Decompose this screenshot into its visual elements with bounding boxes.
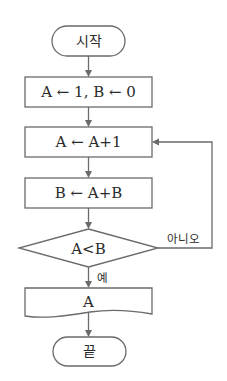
arrow-increment-to-sum (85, 157, 92, 178)
start-terminal: 시작 (52, 26, 125, 56)
arrow-sum-to-decision (85, 208, 92, 229)
end-terminal: 끝 (53, 337, 126, 366)
arrow-yes-to-output (85, 267, 92, 288)
init-process-box: A ← 1, B ← 0 (25, 77, 152, 107)
arrow-start-to-init (85, 56, 92, 77)
sum-label: B ← A+B (55, 184, 123, 202)
flowchart: 시작 A ← 1, B ← 0 A ← A+1 B ← A+B A<B (0, 0, 227, 381)
init-label: A ← 1, B ← 0 (40, 83, 136, 101)
decision-label: A<B (70, 240, 105, 258)
sum-process-box: B ← A+B (25, 178, 152, 208)
arrow-output-to-end (85, 313, 92, 337)
no-label: 아니오 (167, 232, 200, 246)
output-label: A (82, 293, 94, 311)
arrow-init-to-increment (85, 107, 92, 127)
decision-diamond: A<B (19, 229, 158, 267)
yes-label: 예 (97, 271, 108, 285)
output-document: A (25, 288, 152, 317)
increment-process-box: A ← A+1 (25, 127, 152, 157)
increment-label: A ← A+1 (55, 133, 122, 151)
end-label: 끝 (83, 343, 96, 359)
start-label: 시작 (76, 33, 102, 49)
